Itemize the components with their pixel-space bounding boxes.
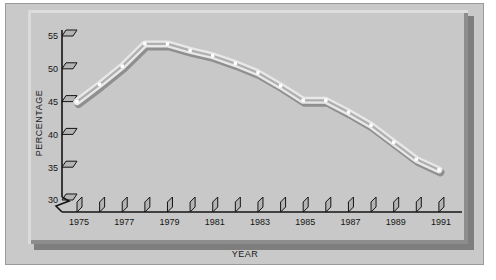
svg-text:1975: 1975: [69, 217, 89, 227]
svg-text:1977: 1977: [114, 217, 134, 227]
svg-text:40: 40: [48, 130, 58, 140]
svg-text:50: 50: [48, 64, 58, 74]
svg-text:30: 30: [48, 195, 58, 205]
chart-canvas: 555045403530 197519771979198119831985198…: [0, 0, 496, 280]
svg-text:1983: 1983: [250, 217, 270, 227]
data-line-series: [77, 44, 440, 172]
svg-text:1987: 1987: [340, 217, 360, 227]
svg-text:1979: 1979: [159, 217, 179, 227]
svg-text:1991: 1991: [431, 217, 451, 227]
svg-text:55: 55: [48, 31, 58, 41]
x-axis-title: YEAR: [200, 249, 290, 259]
chart-figure: 555045403530 197519771979198119831985198…: [0, 0, 496, 280]
svg-text:45: 45: [48, 97, 58, 107]
svg-text:1985: 1985: [295, 217, 315, 227]
axis-lines: [62, 30, 462, 212]
svg-text:1989: 1989: [386, 217, 406, 227]
y-axis-title: PERCENTAGE: [34, 78, 44, 168]
svg-text:35: 35: [48, 163, 58, 173]
svg-text:1981: 1981: [205, 217, 225, 227]
